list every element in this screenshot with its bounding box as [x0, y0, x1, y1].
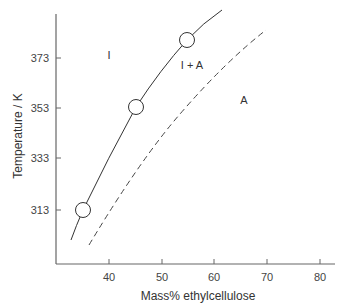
- y-tick-label: 313: [31, 204, 49, 216]
- x-tick-label: 50: [156, 271, 168, 283]
- x-tick-label: 70: [261, 271, 273, 283]
- region-label-I-plus-A: I + A: [181, 59, 204, 71]
- solid-boundary-curve: [71, 10, 222, 240]
- dashed-boundary-curve: [89, 30, 266, 245]
- x-axis-title: Mass% ethylcellulose: [141, 289, 256, 303]
- x-tick-label: 40: [103, 271, 115, 283]
- data-point: [129, 100, 144, 115]
- y-tick-label: 333: [31, 152, 49, 164]
- x-tick-label: 60: [208, 271, 220, 283]
- y-tick-label: 353: [31, 102, 49, 114]
- x-tick-label: 80: [314, 271, 326, 283]
- y-axis-title: Temperature / K: [11, 93, 25, 178]
- data-point: [76, 203, 91, 218]
- x-ticks: 40 50 60 70 80: [103, 259, 326, 283]
- phase-diagram-chart: 373 353 333 313 40 50 60 70 80 Mass% eth…: [0, 0, 345, 307]
- data-point: [180, 33, 195, 48]
- region-label-I: I: [107, 49, 110, 61]
- y-tick-label: 373: [31, 52, 49, 64]
- region-label-A: A: [240, 94, 248, 106]
